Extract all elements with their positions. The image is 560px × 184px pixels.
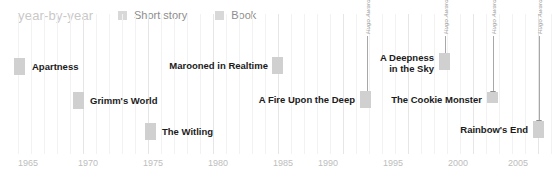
gridline <box>291 14 292 154</box>
data-point-a-fire-upon-the-deep[interactable] <box>360 91 371 108</box>
gridline <box>18 14 19 154</box>
axis-tick-2005: 2005 <box>508 158 528 168</box>
gridline-major <box>83 14 84 154</box>
axis-tick-2000: 2000 <box>448 158 468 168</box>
data-point-grimms-world[interactable] <box>73 92 84 109</box>
axis-tick-1980: 1980 <box>208 158 228 168</box>
gridline <box>96 14 97 154</box>
data-point-apartness[interactable] <box>14 58 25 75</box>
hugo-award-leader-line <box>539 36 540 121</box>
axis-tick-1975: 1975 <box>143 158 163 168</box>
data-point-a-deepness-in-the-sky[interactable] <box>439 53 450 70</box>
hugo-award-label: Hugo Award <box>491 0 497 34</box>
axis-tick-1970: 1970 <box>78 158 98 168</box>
axis-tick-1990: 1990 <box>318 158 338 168</box>
gridline-major <box>343 14 344 154</box>
gridline <box>434 14 435 154</box>
gridline-major <box>408 14 409 154</box>
gridline <box>239 14 240 154</box>
gridline <box>122 14 123 154</box>
hugo-award-leader-line <box>367 36 368 94</box>
gridline <box>330 14 331 154</box>
hugo-award-label: Hugo Award <box>443 0 449 34</box>
hugo-award-label: Hugo Award <box>537 0 543 34</box>
gridline <box>57 14 58 154</box>
data-label-apartness: Apartness <box>32 61 78 72</box>
gridline <box>252 14 253 154</box>
data-point-rainbows-end[interactable] <box>533 121 544 138</box>
gridline <box>31 14 32 154</box>
data-label-the-witling: The Witling <box>162 126 213 137</box>
axis-tick-1965: 1965 <box>18 158 38 168</box>
gridline <box>551 14 552 154</box>
hugo-award-leader-line <box>493 36 494 92</box>
data-label-grimms-world: Grimm's World <box>90 95 158 106</box>
gridline <box>447 14 448 154</box>
year-by-year-timeline-chart: year-by-year Short story Book <box>0 0 560 184</box>
gridline-major <box>213 14 214 154</box>
gridline <box>226 14 227 154</box>
gridline <box>356 14 357 154</box>
data-label-a-fire-upon-the-deep: A Fire Upon the Deep <box>259 94 355 105</box>
gridline <box>304 14 305 154</box>
data-point-the-cookie-monster[interactable] <box>487 92 498 103</box>
gridline <box>421 14 422 154</box>
data-point-marooned-in-realtime[interactable] <box>272 57 283 74</box>
data-label-a-deepness-in-the-sky-line2: in the Sky <box>389 63 434 74</box>
gridline <box>395 14 396 154</box>
gridline <box>44 14 45 154</box>
hugo-award-label: Hugo Award <box>365 0 371 34</box>
gridline-major <box>278 14 279 154</box>
axis-tick-1985: 1985 <box>273 158 293 168</box>
gridline <box>265 14 266 154</box>
data-label-a-deepness-in-the-sky-line1: A Deepness <box>380 52 434 63</box>
data-label-the-cookie-monster: The Cookie Monster <box>391 94 482 105</box>
gridline <box>369 14 370 154</box>
data-label-rainbows-end: Rainbow's End <box>460 124 528 135</box>
gridline <box>317 14 318 154</box>
data-point-the-witling[interactable] <box>145 123 156 140</box>
gridline <box>382 14 383 154</box>
data-label-marooned-in-realtime: Marooned in Realtime <box>169 60 268 71</box>
x-axis: 1965 1970 1975 1980 1985 1990 1995 2000 … <box>0 154 560 184</box>
gridline <box>109 14 110 154</box>
gridline <box>135 14 136 154</box>
gridline <box>70 14 71 154</box>
axis-tick-1995: 1995 <box>383 158 403 168</box>
